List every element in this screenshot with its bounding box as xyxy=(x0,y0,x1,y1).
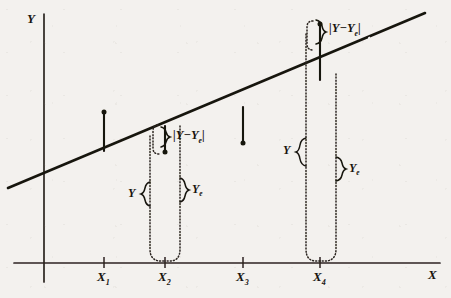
tick-label-x3: X3 xyxy=(236,270,249,287)
brace-label-y-x2-base: Y xyxy=(128,186,135,200)
brace-label-ye-x2-sub: e xyxy=(199,189,202,198)
residual-label-x2-tail: | xyxy=(202,128,205,142)
tick-label-x1-sub: 1 xyxy=(106,278,110,287)
residual-label-x2: |Y−Ye| xyxy=(173,129,205,144)
regression-diagram xyxy=(0,0,451,298)
data-point-x2 xyxy=(163,150,168,155)
dotted-bracket-ye-x4 xyxy=(320,74,336,261)
residual-label-x4: |Y−Ye| xyxy=(329,22,361,37)
brace-ye-x4 xyxy=(336,157,346,181)
tick-label-x2: X2 xyxy=(158,270,171,287)
tick-label-x4: X4 xyxy=(313,270,326,287)
y-axis-label: Y xyxy=(27,12,35,25)
brace-label-ye-x4-sub: e xyxy=(356,168,359,177)
residual-label-x4-tail: | xyxy=(358,21,361,35)
brace-ye-x2 xyxy=(180,178,189,202)
tick-label-x4-base: X xyxy=(313,269,322,284)
tick-label-x3-sub: 3 xyxy=(245,278,249,287)
dotted-bracket-ye-x2 xyxy=(165,126,180,261)
data-point-x3 xyxy=(241,141,246,146)
x-axis-label: X xyxy=(428,268,437,281)
brace-label-ye-x4: Ye xyxy=(349,162,360,177)
tick-label-x4-sub: 4 xyxy=(322,278,326,287)
residual-label-x2-base: |Y−Y xyxy=(173,128,199,142)
dotted-bracket-residual-x4 xyxy=(307,21,313,50)
brace-label-ye-x2: Ye xyxy=(192,183,203,198)
data-point-x1 xyxy=(102,110,107,115)
tick-label-x3-base: X xyxy=(236,269,245,284)
dotted-bracket-residual-x2 xyxy=(153,125,159,154)
brace-label-y-x2: Y xyxy=(128,187,135,202)
dotted-bracket-y-x2 xyxy=(150,136,165,261)
brace-label-y-x4: Y xyxy=(283,144,290,159)
residual-label-x4-base: |Y−Y xyxy=(329,21,355,35)
tick-label-x2-sub: 2 xyxy=(167,278,171,287)
brace-y-x2 xyxy=(141,182,150,206)
tick-label-x1-base: X xyxy=(97,269,106,284)
brace-y-x4 xyxy=(296,138,306,166)
brace-label-y-x4-base: Y xyxy=(283,143,290,157)
dotted-bracket-y-x4 xyxy=(306,34,320,261)
tick-label-x1: X1 xyxy=(97,270,110,287)
tick-label-x2-base: X xyxy=(158,269,167,284)
regression-line xyxy=(8,13,425,188)
